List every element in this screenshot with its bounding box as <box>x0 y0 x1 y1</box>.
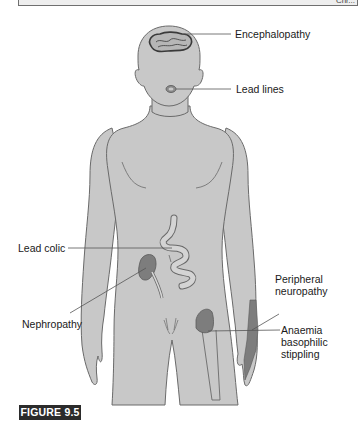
label-lead-lines: Lead lines <box>236 83 284 95</box>
body-silhouette <box>81 26 257 405</box>
brain-icon <box>150 32 192 51</box>
label-nephropathy: Nephropathy <box>22 318 82 330</box>
label-anaemia: Anaemia basophilic stippling <box>281 324 328 360</box>
label-peripheral-neuropathy: Peripheral neuropathy <box>275 273 328 297</box>
label-encephalopathy: Encephalopathy <box>235 28 310 40</box>
figure-label: FIGURE 9.5 <box>19 405 81 420</box>
label-lead-colic: Lead colic <box>18 242 65 254</box>
